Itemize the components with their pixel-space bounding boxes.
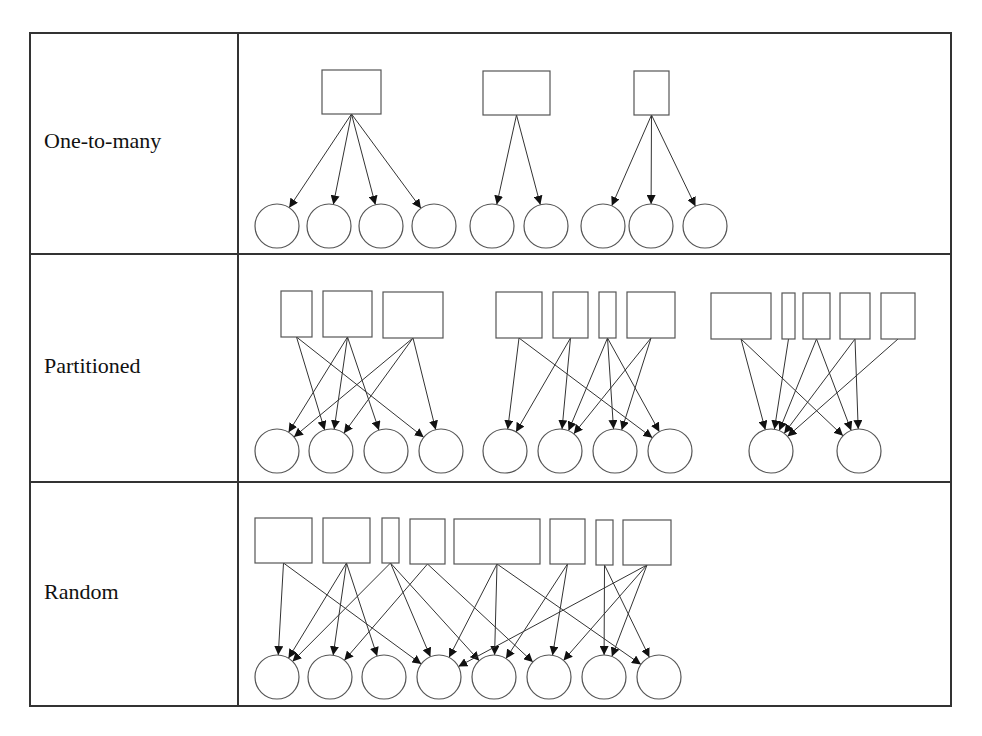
edge-arrow bbox=[519, 338, 652, 438]
source-node-rect bbox=[840, 293, 870, 339]
edge-arrow bbox=[622, 338, 651, 430]
edge-arrow bbox=[458, 565, 647, 667]
target-node-circle bbox=[648, 429, 692, 473]
edge-arrow bbox=[289, 337, 348, 432]
partitioned-graph bbox=[255, 291, 915, 473]
target-node-circle bbox=[255, 655, 299, 699]
target-node-circle bbox=[309, 429, 353, 473]
target-node-circle bbox=[308, 655, 352, 699]
source-node-rect bbox=[803, 293, 830, 339]
edge-arrow bbox=[506, 564, 568, 659]
target-node-circle bbox=[307, 204, 351, 248]
edge-arrow bbox=[574, 338, 651, 434]
edge-arrow bbox=[449, 564, 497, 657]
source-node-rect bbox=[496, 292, 542, 338]
target-node-circle bbox=[749, 429, 793, 473]
target-node-circle bbox=[417, 655, 461, 699]
target-node-circle bbox=[582, 655, 626, 699]
edge-arrow bbox=[612, 115, 652, 206]
source-node-rect bbox=[634, 71, 669, 115]
source-node-rect bbox=[483, 71, 550, 115]
target-node-circle bbox=[527, 655, 571, 699]
edge-arrow bbox=[562, 338, 570, 429]
edge-arrow bbox=[608, 338, 660, 432]
random-graph bbox=[255, 518, 681, 699]
target-node-circle bbox=[837, 429, 881, 473]
edge-arrow bbox=[652, 115, 696, 206]
table-frame bbox=[30, 33, 951, 706]
source-node-rect bbox=[383, 292, 443, 338]
edge-arrow bbox=[855, 339, 858, 429]
edge-arrow bbox=[495, 564, 497, 655]
edge-arrow bbox=[278, 563, 283, 655]
row-label-one-to-many: One-to-many bbox=[44, 128, 161, 153]
edge-arrow bbox=[334, 337, 347, 429]
edge-arrow bbox=[293, 563, 391, 661]
target-node-circle bbox=[470, 204, 514, 248]
source-node-rect bbox=[454, 519, 540, 564]
source-node-rect bbox=[782, 293, 795, 339]
target-node-circle bbox=[581, 204, 625, 248]
edge-arrow bbox=[497, 115, 517, 205]
edge-arrow bbox=[352, 114, 421, 208]
edge-arrow bbox=[774, 339, 788, 429]
edge-arrow bbox=[344, 564, 427, 660]
edge-arrow bbox=[779, 339, 816, 431]
edge-arrow bbox=[344, 338, 413, 433]
source-node-rect bbox=[323, 518, 370, 563]
edge-arrow bbox=[348, 337, 379, 430]
target-node-circle bbox=[412, 204, 456, 248]
edge-arrow bbox=[563, 565, 647, 660]
target-node-circle bbox=[364, 429, 408, 473]
edge-arrow bbox=[347, 563, 378, 656]
one-to-many-graph bbox=[255, 70, 727, 248]
edge-arrow bbox=[741, 339, 843, 436]
edge-arrow bbox=[508, 338, 519, 429]
edge-arrow bbox=[297, 337, 424, 437]
source-node-rect bbox=[881, 293, 915, 339]
source-node-rect bbox=[322, 70, 381, 114]
target-node-circle bbox=[593, 429, 637, 473]
target-node-circle bbox=[683, 204, 727, 248]
source-node-rect bbox=[623, 520, 671, 565]
target-node-circle bbox=[362, 655, 406, 699]
edge-arrow bbox=[428, 564, 533, 662]
edge-arrow bbox=[297, 337, 325, 430]
source-node-rect bbox=[410, 519, 445, 564]
edge-arrow bbox=[284, 563, 422, 664]
edge-arrow bbox=[288, 563, 346, 658]
row-label-random: Random bbox=[44, 579, 119, 604]
target-node-circle bbox=[472, 655, 516, 699]
target-node-circle bbox=[629, 204, 673, 248]
edge-arrow bbox=[391, 563, 480, 661]
target-node-circle bbox=[255, 204, 299, 248]
edge-arrow bbox=[741, 339, 765, 430]
edge-arrow bbox=[413, 338, 436, 430]
source-node-rect bbox=[255, 518, 312, 563]
source-node-rect bbox=[382, 518, 399, 563]
edge-arrow bbox=[516, 338, 570, 432]
edge-arrow bbox=[553, 564, 568, 655]
edge-arrow bbox=[608, 338, 614, 429]
row-label-partitioned: Partitioned bbox=[44, 353, 141, 378]
source-node-rect bbox=[599, 292, 616, 338]
target-node-circle bbox=[637, 655, 681, 699]
edge-arrow bbox=[612, 565, 647, 656]
target-node-circle bbox=[419, 429, 463, 473]
source-node-rect bbox=[627, 292, 675, 338]
table-outer-border bbox=[30, 33, 951, 706]
edge-arrow bbox=[352, 114, 376, 205]
edge-arrow bbox=[517, 115, 541, 205]
source-node-rect bbox=[323, 291, 372, 337]
source-node-rect bbox=[550, 519, 585, 564]
target-node-circle bbox=[483, 429, 527, 473]
target-node-circle bbox=[359, 204, 403, 248]
communication-patterns-diagram: One-to-many Partitioned Random bbox=[0, 0, 982, 736]
source-node-rect bbox=[281, 291, 312, 337]
source-node-rect bbox=[711, 293, 771, 339]
target-node-circle bbox=[538, 429, 582, 473]
target-node-circle bbox=[524, 204, 568, 248]
target-node-circle bbox=[255, 429, 299, 473]
edge-arrow bbox=[391, 563, 431, 657]
source-node-rect bbox=[553, 292, 588, 338]
